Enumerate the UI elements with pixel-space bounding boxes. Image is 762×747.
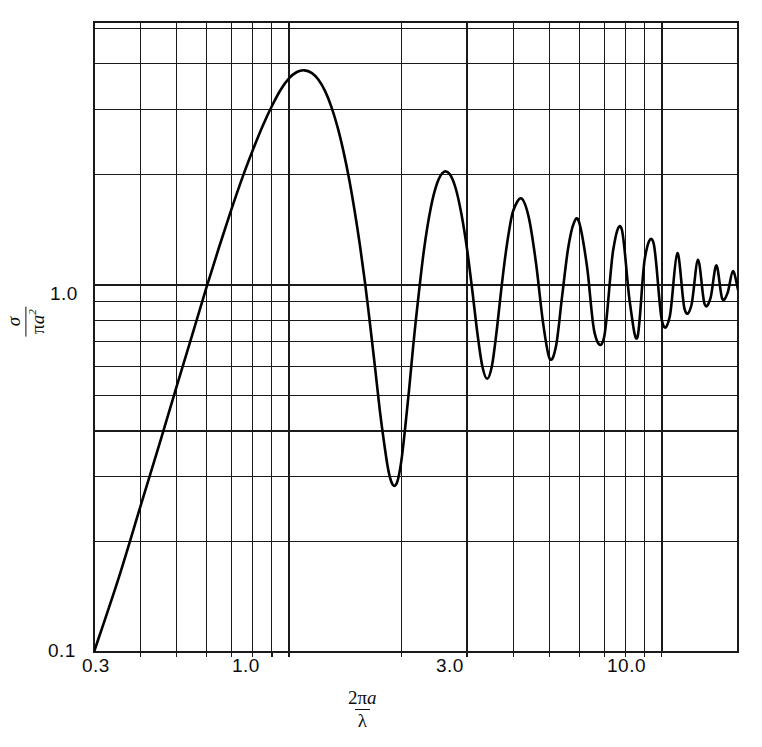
y-axis-denominator: πa2 [25,306,47,337]
x-axis-numerator-coefficient: 2 [348,687,358,708]
x-axis-numerator-pi: π [358,687,368,708]
y-tick-label-0.1: 0.1 [48,640,76,662]
y-axis-denominator-var: a [27,315,48,325]
x-axis-numerator-var: a [367,687,377,708]
y-axis-fraction: σ πa2 [4,306,47,337]
x-tick-label-0.3: 0.3 [82,655,110,677]
y-tick-label-1: 1.0 [50,283,78,305]
scattering-efficiency-curve [94,70,738,652]
y-axis-denominator-exponent: 2 [26,309,38,315]
data-curve-group [94,70,738,652]
x-tick-label-1.0: 1.0 [232,655,260,677]
x-tick-label-10.0: 10.0 [607,655,646,677]
y-axis-title: σ πa2 [4,302,47,342]
plot-canvas [0,0,762,747]
x-axis-title: 2πa λ [345,688,380,731]
x-axis-fraction: 2πa λ [345,688,380,731]
mie-scattering-figure: 1.0 0.1 0.3 1.0 3.0 10.0 σ πa2 2πa λ [0,0,762,747]
y-axis-numerator: σ [4,314,25,329]
y-axis-denominator-pi: π [27,324,48,334]
x-axis-numerator: 2πa [345,688,380,709]
x-tick-label-3.0: 3.0 [436,655,464,677]
x-axis-denominator: λ [355,709,370,731]
